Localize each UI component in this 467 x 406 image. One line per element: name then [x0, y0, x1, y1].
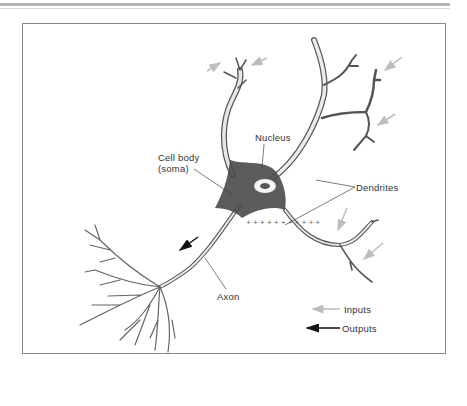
soma-label: (soma) — [158, 163, 189, 174]
dendrite-upper-right — [270, 40, 380, 180]
neuron-illustration: + + + + + + + + + + + — [0, 0, 467, 406]
legend-arrows — [307, 309, 340, 328]
legend-inputs-label: Inputs — [344, 304, 371, 315]
nucleolus — [260, 183, 270, 189]
leader-lines — [194, 144, 355, 289]
cell-body — [215, 160, 286, 218]
nucleus-label: Nucleus — [255, 132, 291, 143]
axon — [160, 205, 240, 287]
dendrite-upper-left — [224, 58, 246, 175]
legend-outputs-label: Outputs — [342, 323, 377, 334]
axon-label: Axon — [217, 291, 239, 302]
dendrites-label: Dendrites — [356, 182, 398, 193]
cell-body-label: Cell body — [158, 152, 199, 163]
output-arrow — [180, 237, 198, 250]
axon-terminals — [80, 225, 175, 352]
svg-text:+ + + + + + + + + + +: + + + + + + + + + + + — [246, 218, 320, 225]
plus-charges: + + + + + + + + + + + — [246, 218, 320, 225]
